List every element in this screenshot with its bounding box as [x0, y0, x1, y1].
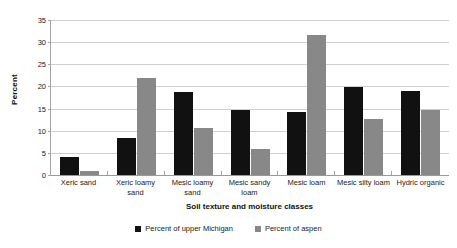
bar[interactable] [364, 119, 383, 175]
y-tick-label: 30 [38, 38, 46, 47]
y-tick-label: 10 [38, 126, 46, 135]
y-tick-label: 25 [38, 60, 46, 69]
x-axis-title: Soil texture and moisture classes [50, 202, 449, 211]
bar-group [165, 20, 222, 175]
bar-group [222, 20, 279, 175]
y-tick-label: 35 [38, 16, 46, 25]
bar[interactable] [307, 35, 326, 175]
bar[interactable] [137, 78, 156, 175]
bar-chart: Percent 05101520253035 Xeric sandXeric l… [0, 0, 457, 248]
bar[interactable] [344, 87, 363, 175]
x-axis-tick-labels: Xeric sandXeric loamy sandMesic loamy sa… [50, 178, 449, 202]
x-tick-label: Mesic loam [278, 178, 335, 202]
y-tick-label: 5 [42, 148, 46, 157]
y-tickmark [48, 175, 51, 176]
legend-swatch-icon [255, 226, 261, 232]
bar-group [335, 20, 392, 175]
bar[interactable] [194, 128, 213, 175]
bar[interactable] [251, 149, 270, 175]
bar[interactable] [287, 112, 306, 175]
y-tick-label: 20 [38, 82, 46, 91]
bar[interactable] [421, 110, 440, 175]
legend-label: Percent of aspen [265, 224, 322, 233]
bar[interactable] [80, 171, 99, 175]
legend-label: Percent of upper Michigan [145, 224, 233, 233]
legend-item[interactable]: Percent of aspen [255, 224, 322, 233]
legend-item[interactable]: Percent of upper Michigan [135, 224, 233, 233]
y-axis-tick-labels: 05101520253035 [24, 20, 46, 175]
bar-group [51, 20, 108, 175]
y-tick-label: 15 [38, 104, 46, 113]
x-tick-label: Xeric loamy sand [107, 178, 164, 202]
x-tick-label: Mesic loamy sand [164, 178, 221, 202]
bar[interactable] [174, 92, 193, 175]
bar[interactable] [117, 138, 136, 175]
y-axis-title-label: Percent [10, 74, 19, 105]
x-tick-label: Xeric sand [50, 178, 107, 202]
bar[interactable] [231, 110, 250, 175]
x-tick-label: Hydric organic [392, 178, 449, 202]
bar[interactable] [401, 91, 420, 175]
chart-legend: Percent of upper MichiganPercent of aspe… [0, 224, 457, 233]
y-tick-label: 0 [42, 171, 46, 180]
x-tick-label: Mesic silty loam [335, 178, 392, 202]
plot-area [50, 20, 449, 175]
axis-baseline [51, 175, 449, 176]
bar-group [108, 20, 165, 175]
bars-layer [51, 20, 449, 175]
y-axis-title: Percent [6, 0, 22, 178]
bar-group [278, 20, 335, 175]
x-tick-label: Mesic sandy loam [221, 178, 278, 202]
legend-swatch-icon [135, 226, 141, 232]
bar[interactable] [60, 157, 79, 175]
bar-group [392, 20, 449, 175]
